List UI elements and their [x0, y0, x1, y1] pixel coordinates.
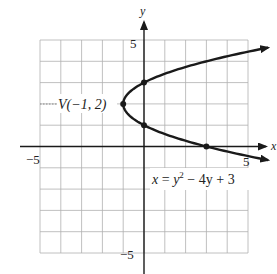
x-min-tick-label: −5	[26, 152, 40, 167]
y-max-tick-label: 5	[130, 36, 137, 51]
eq-equals: =	[158, 172, 173, 187]
y-axis-label: y	[139, 4, 146, 18]
x-max-tick-label: 5	[243, 154, 250, 169]
y-min-tick-label: −5	[120, 247, 134, 262]
parabola-lower-branch	[123, 104, 268, 160]
x-intercept-point	[203, 144, 209, 150]
vertex-point	[120, 101, 126, 107]
y-intercept-point	[141, 122, 147, 128]
eq-rest: − 4y + 3	[184, 172, 235, 187]
vertex-label-text: V(−1, 2)	[58, 97, 107, 113]
parabola-upper-branch	[123, 48, 268, 104]
parabola-chart: y x 5 −5 5 −5 V(−1, 2) x = y2 − 4y + 3	[0, 0, 277, 274]
equation-label: x = y2 − 4y + 3	[151, 170, 235, 187]
y-intercept-point	[141, 80, 147, 86]
x-axis-label: x	[270, 139, 277, 153]
vertex-label: V(−1, 2)	[58, 97, 107, 113]
